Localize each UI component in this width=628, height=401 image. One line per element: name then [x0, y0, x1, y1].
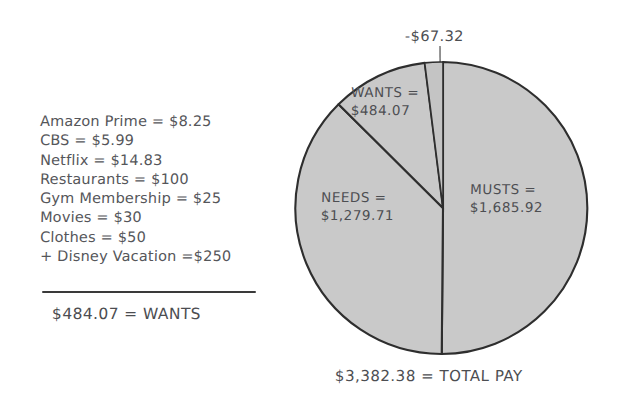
list-item: Amazon Prime = $8.25	[40, 112, 276, 131]
pie-label-needs-line2: $1,279.71	[321, 207, 395, 225]
list-item: Netflix = $14.83	[40, 151, 276, 170]
list-item: Restaurants = $100	[40, 170, 276, 189]
pie-label-wants-line1: WANTS =	[351, 84, 419, 102]
wants-expense-list: Amazon Prime = $8.25 CBS = $5.99 Netflix…	[40, 112, 275, 266]
pie-label-wants: WANTS = $484.07	[351, 84, 420, 119]
total-pay-label: $3,382.38 = TOTAL PAY	[335, 367, 523, 385]
pie-chart: -$67.32 WANTS = $484.07 NEEDS = $1,279.7…	[290, 24, 628, 369]
sum-divider-rule	[42, 291, 256, 293]
pie-label-musts-line2: $1,685.92	[470, 199, 544, 217]
pie-label-needs-line1: NEEDS =	[321, 189, 395, 207]
pie-label-wants-line2: $484.07	[351, 102, 419, 120]
sliver-callout-label: -$67.32	[405, 28, 464, 44]
worksheet-canvas: Amazon Prime = $8.25 CBS = $5.99 Netflix…	[0, 0, 628, 401]
pie-label-needs: NEEDS = $1,279.71	[321, 189, 395, 224]
list-item: Gym Membership = $25	[40, 189, 276, 208]
list-item: Movies = $30	[40, 208, 276, 227]
wants-total-text: $484.07 = WANTS	[52, 305, 201, 323]
pie-label-musts-line1: MUSTS =	[470, 181, 544, 199]
list-item: + Disney Vacation =$250	[40, 247, 276, 266]
list-item: CBS = $5.99	[40, 131, 276, 150]
list-item: Clothes = $50	[40, 228, 276, 247]
pie-label-musts: MUSTS = $1,685.92	[470, 181, 544, 216]
